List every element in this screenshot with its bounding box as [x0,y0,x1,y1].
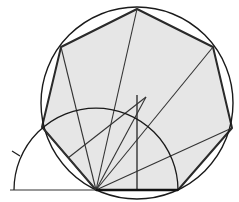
heptagon-construction-diagram [0,0,239,202]
